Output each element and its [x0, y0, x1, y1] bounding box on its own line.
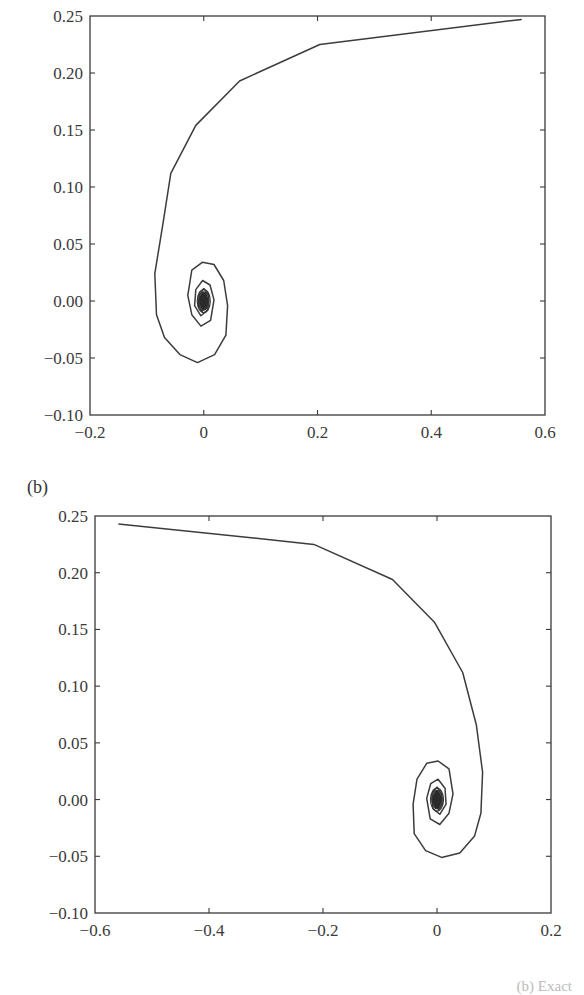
y-tick-label: −0.05 [49, 847, 88, 866]
x-tick-label: 0.4 [421, 423, 443, 442]
y-tick-label: 0.05 [53, 235, 83, 254]
figure-caption-fragment: (b) Exact [0, 978, 584, 995]
plot-frame [95, 516, 551, 913]
spiral-core [433, 791, 442, 809]
y-tick-label: 0.10 [58, 677, 88, 696]
y-tick-label: 0.15 [53, 121, 83, 140]
spiral-core [199, 292, 208, 310]
y-tick-label: 0.15 [58, 620, 88, 639]
y-tick-label: −0.05 [44, 349, 83, 368]
x-tick-label: 0.6 [534, 423, 555, 442]
chart-panel-b: (b) 0.250.200.150.100.050.00−0.05−0.10−0… [0, 470, 584, 940]
x-tick-label: −0.4 [194, 921, 225, 940]
phase-plot-b: 0.250.200.150.100.050.00−0.05−0.10−0.6−0… [0, 470, 584, 940]
x-tick-label: 0 [433, 921, 442, 940]
y-tick-label: 0.05 [58, 734, 88, 753]
y-tick-label: 0.20 [58, 564, 88, 583]
phase-plot-a: 0.250.200.150.100.050.00−0.05−0.10−0.200… [0, 0, 584, 450]
y-tick-label: 0.25 [53, 7, 83, 26]
trajectory-line [155, 19, 522, 362]
x-tick-label: 0 [200, 423, 209, 442]
trajectory-line [118, 524, 482, 858]
y-tick-label: 0.00 [58, 791, 88, 810]
y-tick-label: 0.20 [53, 64, 83, 83]
y-tick-label: 0.10 [53, 178, 83, 197]
x-tick-label: 0.2 [307, 423, 328, 442]
y-tick-label: 0.25 [58, 507, 88, 526]
y-tick-label: 0.00 [53, 292, 83, 311]
x-tick-label: −0.2 [75, 423, 106, 442]
x-tick-label: 0.2 [540, 921, 561, 940]
chart-panel-a: 0.250.200.150.100.050.00−0.05−0.10−0.200… [0, 0, 584, 450]
plot-frame [90, 16, 545, 415]
x-tick-label: −0.2 [308, 921, 339, 940]
x-tick-label: −0.6 [80, 921, 111, 940]
